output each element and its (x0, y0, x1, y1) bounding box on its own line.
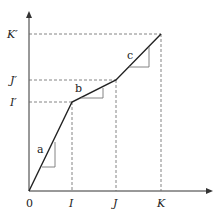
x-label-k: K (156, 197, 166, 210)
x-label-i: I (68, 197, 74, 210)
y-label-i-prime: I′ (9, 96, 17, 109)
slope-triangle-a (42, 142, 55, 167)
y-label-k-prime: K′ (6, 28, 18, 41)
y-label-j-prime: J′ (8, 74, 17, 87)
x-axis-arrow-icon (206, 188, 213, 194)
y-axis-arrow-icon (26, 11, 32, 18)
segment-label-a: a (37, 143, 44, 156)
x-label-j: J (111, 197, 118, 210)
piecewise-linear-diagram: a b c K′ J′ I′ 0 I J K (0, 0, 223, 215)
origin-label: 0 (26, 197, 33, 210)
segment-label-b: b (75, 82, 82, 95)
segment-label-c: c (127, 49, 133, 62)
